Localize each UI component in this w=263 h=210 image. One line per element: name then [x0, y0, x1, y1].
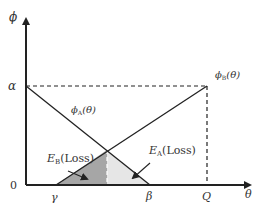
loss-diagram: ϕ θ 0 α γ β Q ϕA(θ) ϕB(θ) EB(Loss) EA(Lo…: [0, 0, 263, 210]
e-a-pointer-arrow: [133, 163, 150, 178]
e-b-loss-label: EB(Loss): [46, 152, 94, 166]
q-label: Q: [202, 190, 211, 203]
x-axis-label: θ: [245, 188, 252, 201]
y-axis-label: ϕ: [9, 10, 17, 24]
phi-b-label: ϕB(θ): [215, 69, 240, 81]
beta-label: β: [145, 190, 152, 203]
origin-label: 0: [10, 179, 17, 192]
phi-a-label: ϕA(θ): [71, 104, 96, 116]
gamma-label: γ: [51, 191, 58, 204]
e-a-loss-label: EA(Loss): [148, 144, 196, 158]
alpha-label: α: [8, 79, 16, 93]
